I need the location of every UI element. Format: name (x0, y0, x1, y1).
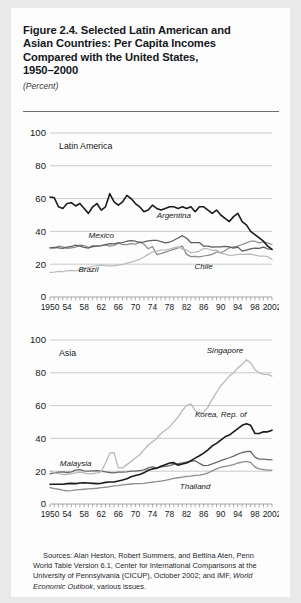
series-label-chile: Chile (195, 262, 214, 271)
chart-region-title: Latin America (59, 141, 112, 151)
chart-asia-svg: 0204060801001950545862667074788286909498… (23, 328, 279, 533)
x-axis-tick-label: 78 (165, 509, 175, 519)
y-axis-tick-label: 0 (41, 498, 46, 509)
x-axis-tick-label: 98 (250, 302, 260, 312)
source-line-2: World Table Version 6.1, Center for Inte… (33, 561, 244, 570)
source-line-1: Sources: Alan Heston, Robert Summers, an… (43, 551, 254, 560)
figure-units-label: (Percent) (23, 81, 279, 91)
x-axis-tick-label: 94 (233, 509, 243, 519)
series-label-singapore: Singapore (207, 346, 244, 355)
y-axis-tick-label: 40 (35, 433, 46, 444)
chart-asia: 0204060801001950545862667074788286909498… (23, 328, 279, 533)
y-axis-tick-label: 60 (35, 400, 46, 411)
series-label-mexico: Mexico (89, 231, 115, 240)
source-line-4-rest: , various issues. (93, 582, 146, 591)
series-line-mexico (50, 236, 272, 251)
x-axis-tick-label: 1950 (41, 509, 60, 519)
y-axis-tick-label: 100 (30, 127, 46, 138)
x-axis-tick-label: 98 (250, 509, 260, 519)
y-axis-tick-label: 80 (35, 160, 46, 171)
y-axis-tick-label: 60 (35, 193, 46, 204)
x-axis-tick-label: 70 (131, 302, 141, 312)
x-axis-tick-label: 62 (97, 302, 107, 312)
x-axis-tick-label: 94 (233, 302, 243, 312)
x-axis-tick-label: 2002 (263, 302, 279, 312)
x-axis-tick-label: 1950 (41, 302, 60, 312)
y-axis-tick-label: 20 (35, 466, 46, 477)
y-axis-tick-label: 0 (41, 291, 46, 302)
x-axis-tick-label: 74 (148, 509, 158, 519)
x-axis-tick-label: 90 (216, 509, 226, 519)
source-note: Sources: Alan Heston, Robert Summers, an… (33, 551, 273, 592)
y-axis-tick-label: 80 (35, 367, 46, 378)
y-axis-tick-label: 20 (35, 259, 46, 270)
x-axis-tick-label: 54 (62, 302, 72, 312)
chart-region-title: Asia (59, 348, 76, 358)
x-axis-tick-label: 78 (165, 302, 175, 312)
x-axis-tick-label: 74 (148, 302, 158, 312)
series-label-malaysia: Malaysia (60, 459, 92, 468)
x-axis-tick-label: 58 (79, 302, 89, 312)
x-axis-tick-label: 86 (199, 302, 209, 312)
series-label-argentina: Argentina (156, 211, 192, 220)
series-label-thailand: Thailand (180, 482, 211, 491)
x-axis-tick-label: 66 (114, 509, 124, 519)
title-line-3: Compared with the United States, (23, 51, 279, 64)
x-axis-tick-label: 86 (199, 509, 209, 519)
y-axis-tick-label: 40 (35, 226, 46, 237)
page-title: Figure 2.4. Selected Latin American and … (23, 24, 279, 78)
figure-page: Figure 2.4. Selected Latin American and … (11, 8, 290, 597)
title-line-2: Asian Countries: Per Capita Incomes (23, 37, 279, 50)
chart-latin-america-svg: 0204060801001950545862667074788286909498… (23, 121, 279, 326)
title-line-4: 1950–2000 (23, 64, 279, 77)
x-axis-tick-label: 2002 (263, 509, 279, 519)
header-divider (23, 111, 279, 112)
figure-header: Figure 2.4. Selected Latin American and … (23, 24, 279, 91)
title-line-1: Figure 2.4. Selected Latin American and (23, 24, 279, 37)
x-axis-tick-label: 62 (97, 509, 107, 519)
x-axis-tick-label: 58 (79, 509, 89, 519)
x-axis-tick-label: 90 (216, 302, 226, 312)
chart-latin-america: 0204060801001950545862667074788286909498… (23, 121, 279, 326)
x-axis-tick-label: 82 (182, 509, 192, 519)
series-label-brazil: Brazil (78, 265, 98, 274)
x-axis-tick-label: 70 (131, 509, 141, 519)
y-axis-tick-label: 100 (30, 334, 46, 345)
series-label-korea-rep-of: Korea, Rep. of (195, 410, 247, 419)
x-axis-tick-label: 54 (62, 509, 72, 519)
x-axis-tick-label: 82 (182, 302, 192, 312)
x-axis-tick-label: 66 (114, 302, 124, 312)
